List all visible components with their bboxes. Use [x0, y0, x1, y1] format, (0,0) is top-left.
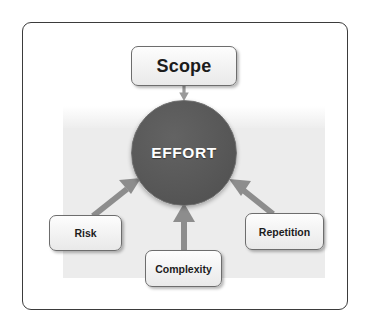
- arrow-complexity-to-effort: [173, 203, 195, 250]
- effort-center-node[interactable]: EFFORT: [131, 100, 237, 206]
- node-complexity[interactable]: Complexity: [145, 250, 222, 287]
- node-risk[interactable]: Risk: [49, 215, 122, 251]
- node-scope-label: Scope: [156, 56, 211, 77]
- diagram-canvas: EFFORT Scope Risk Complexity Repetition: [0, 0, 365, 328]
- node-repetition-label: Repetition: [259, 226, 310, 238]
- arrow-risk-to-effort: [93, 178, 141, 216]
- node-risk-label: Risk: [74, 227, 96, 239]
- effort-center-label: EFFORT: [151, 144, 217, 162]
- node-repetition[interactable]: Repetition: [245, 213, 324, 250]
- arrow-scope-to-effort: [179, 86, 189, 101]
- node-scope[interactable]: Scope: [131, 46, 237, 86]
- arrow-repetition-to-effort: [229, 179, 273, 214]
- node-complexity-label: Complexity: [155, 263, 212, 275]
